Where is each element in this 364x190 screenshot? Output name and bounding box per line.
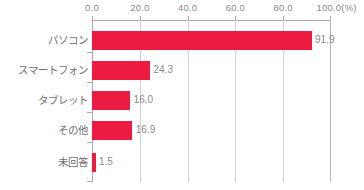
- category-label-2: タブレット: [38, 93, 88, 107]
- bar-1: [92, 61, 150, 80]
- value-label-0: 91.9: [315, 33, 334, 47]
- category-label-3: その他: [58, 123, 88, 137]
- x-axis-tick-labels: 0.0 20.0 40.0 60.0 80.0 100.0(%): [0, 2, 364, 16]
- bar-0: [92, 31, 312, 50]
- bar-2: [92, 91, 130, 110]
- value-label-2: 16.0: [134, 93, 153, 107]
- value-label-4: 1.5: [99, 155, 113, 169]
- x-tick-label-100-percent: 100.0(%): [317, 2, 357, 14]
- y-tick-mark-4: [87, 181, 92, 182]
- category-label-1: スマートフォン: [18, 63, 88, 77]
- x-tick-label-80: 80.0: [274, 2, 293, 14]
- y-tick-mark-0: [87, 52, 92, 53]
- x-tick-label-40: 40.0: [178, 2, 197, 14]
- x-tick-label-20: 20.0: [130, 2, 149, 14]
- bar-3: [92, 121, 132, 140]
- value-label-1: 24.3: [154, 63, 173, 77]
- y-tick-mark-2: [87, 112, 92, 113]
- value-label-3: 16.9: [136, 123, 155, 137]
- category-label-4: 未回答: [58, 155, 88, 169]
- y-tick-mark-1: [87, 82, 92, 83]
- x-tick-label-0: 0.0: [85, 2, 99, 14]
- y-tick-mark-3: [87, 142, 92, 143]
- x-tick-label-60: 60.0: [226, 2, 245, 14]
- bar-4: [92, 153, 96, 172]
- category-label-0: パソコン: [48, 33, 88, 47]
- horizontal-bar-chart: 0.0 20.0 40.0 60.0 80.0 100.0(%) パソコン 91…: [0, 0, 364, 190]
